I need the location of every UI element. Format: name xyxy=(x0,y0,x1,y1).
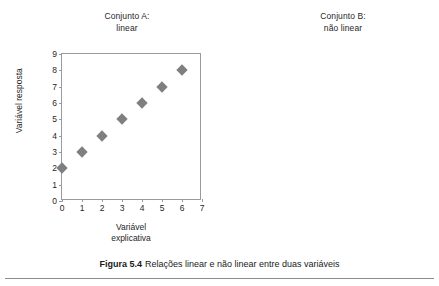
y-tick-conjunto-a xyxy=(59,119,62,120)
data-point xyxy=(156,81,167,92)
data-point xyxy=(116,114,127,125)
x-tick-conjunto-a xyxy=(102,199,103,202)
caption-divider xyxy=(5,278,434,279)
figure-caption-label: Figura 5.4 xyxy=(99,259,142,269)
y-tick-conjunto-a xyxy=(59,152,62,153)
y-tick-conjunto-a xyxy=(59,185,62,186)
x-tick-conjunto-a xyxy=(62,199,63,202)
x-tick-conjunto-a xyxy=(82,199,83,202)
data-point xyxy=(176,65,187,76)
y-tick-label-conjunto-a: 8 xyxy=(52,66,57,75)
plot-area-conjunto-a: 012345678901234567 xyxy=(61,53,201,200)
data-point xyxy=(56,163,67,174)
data-point xyxy=(136,97,147,108)
y-tick-label-conjunto-a: 9 xyxy=(52,50,57,59)
y-tick-label-conjunto-a: 6 xyxy=(52,99,57,108)
x-tick-label-conjunto-a: 3 xyxy=(120,204,125,213)
figure-5-4: Conjunto A: linear 012345678901234567 Va… xyxy=(0,0,439,286)
x-tick-conjunto-a xyxy=(142,199,143,202)
chart-title-conjunto-a: Conjunto A: linear xyxy=(0,11,220,34)
figure-caption: Figura 5.4Relações linear e não linear e… xyxy=(0,258,439,270)
chart-panel-conjunto-b: Conjunto B: não linear 00,511,522,533,54… xyxy=(219,0,439,250)
y-tick-conjunto-a xyxy=(59,54,62,55)
chart-title-conjunto-b: Conjunto B: não linear xyxy=(219,11,439,34)
x-tick-conjunto-a xyxy=(202,199,203,202)
figure-caption-text: Relações linear e não linear entre duas … xyxy=(145,259,340,269)
y-tick-conjunto-a xyxy=(59,103,62,104)
y-tick-label-conjunto-a: 4 xyxy=(52,131,57,140)
x-tick-label-conjunto-a: 4 xyxy=(140,204,145,213)
y-tick-label-conjunto-a: 1 xyxy=(52,180,57,189)
y-tick-label-conjunto-a: 3 xyxy=(52,148,57,157)
x-tick-label-conjunto-a: 5 xyxy=(160,204,165,213)
data-point xyxy=(96,130,107,141)
y-tick-label-conjunto-a: 0 xyxy=(52,197,57,206)
y-tick-conjunto-a xyxy=(59,70,62,71)
data-point xyxy=(76,146,87,157)
y-tick-conjunto-a xyxy=(59,136,62,137)
x-tick-label-conjunto-a: 0 xyxy=(60,204,65,213)
x-tick-conjunto-a xyxy=(182,199,183,202)
y-tick-label-conjunto-a: 7 xyxy=(52,82,57,91)
x-tick-label-conjunto-a: 7 xyxy=(200,204,205,213)
chart-panel-conjunto-a: Conjunto A: linear 012345678901234567 Va… xyxy=(0,0,220,250)
x-axis-title-conjunto-a: Variável explicativa xyxy=(61,222,201,244)
y-tick-conjunto-a xyxy=(59,87,62,88)
x-tick-label-conjunto-a: 6 xyxy=(180,204,185,213)
x-tick-conjunto-a xyxy=(162,199,163,202)
y-axis-title-conjunto-a: Variável resposta xyxy=(15,51,25,151)
x-tick-label-conjunto-a: 1 xyxy=(80,204,85,213)
y-tick-label-conjunto-a: 5 xyxy=(52,115,57,124)
x-tick-label-conjunto-a: 2 xyxy=(100,204,105,213)
x-tick-conjunto-a xyxy=(122,199,123,202)
